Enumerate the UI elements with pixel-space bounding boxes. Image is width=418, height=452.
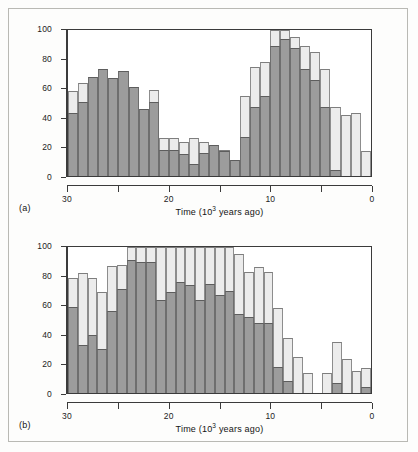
- bar-segment-light: [352, 371, 362, 393]
- bar-column: [107, 247, 117, 393]
- bar-segment-dark: [199, 153, 209, 176]
- x-axis-tick-label: 30: [62, 195, 72, 204]
- bar-segment-dark: [209, 145, 219, 176]
- y-axis-tick: [61, 364, 66, 365]
- bar-segment-dark: [230, 160, 240, 176]
- panel-a: 020406080100 3020100 Time (103 years ago…: [9, 9, 409, 226]
- bar-segment-dark: [169, 150, 179, 176]
- x-axis-tick: [67, 186, 68, 192]
- bar-column: [225, 247, 235, 393]
- bar-segment-dark: [176, 282, 186, 393]
- y-axis-tick: [61, 394, 66, 395]
- y-axis-tick-label: 100: [12, 242, 52, 250]
- bar-segment-dark: [332, 383, 342, 393]
- bar-segment-dark: [240, 137, 250, 176]
- bar-column: [219, 30, 229, 176]
- bar-column: [139, 30, 149, 176]
- bar-column: [250, 30, 260, 176]
- x-axis-title-prefix-a: Time (10: [176, 207, 213, 217]
- y-axis-tick: [61, 118, 66, 119]
- y-axis-tick: [61, 177, 66, 178]
- panel-tag-b: (b): [19, 420, 31, 430]
- figure-histogram-pair: 020406080100 3020100 Time (103 years ago…: [0, 0, 418, 452]
- bar-column: [118, 30, 128, 176]
- y-axis-tick-label: 0: [12, 390, 52, 398]
- bar-column: [332, 247, 342, 393]
- bar-column: [189, 30, 199, 176]
- y-axis-tick-label: 80: [12, 55, 52, 63]
- bar-segment-dark: [118, 71, 128, 176]
- y-axis-tick-label: 60: [12, 84, 52, 92]
- figure-frame: 020406080100 3020100 Time (103 years ago…: [8, 8, 408, 442]
- bar-segment-dark: [330, 170, 340, 176]
- bar-segment-dark: [205, 284, 215, 394]
- bar-segment-dark: [78, 102, 88, 176]
- x-axis-b: 3020100: [67, 402, 372, 410]
- bar-column: [283, 247, 293, 393]
- x-axis-tick: [67, 403, 68, 409]
- bar-segment-dark: [68, 307, 78, 393]
- bar-column: [195, 247, 205, 393]
- y-axis-tick-label: 0: [12, 173, 52, 181]
- bar-column: [156, 247, 166, 393]
- bar-column: [300, 30, 310, 176]
- bar-column: [146, 247, 156, 393]
- panel-b: 020406080100 3020100 Time (103 years ago…: [9, 226, 409, 443]
- bar-column: [322, 247, 332, 393]
- plot-area-a: [67, 29, 372, 177]
- panel-tag-a: (a): [19, 203, 31, 213]
- bar-group-b: [68, 247, 371, 393]
- bar-column: [159, 30, 169, 176]
- bar-segment-dark: [219, 151, 229, 176]
- x-axis-tick-label: 20: [164, 412, 174, 421]
- bar-column: [209, 30, 219, 176]
- bar-segment-dark: [225, 291, 235, 393]
- bar-column: [78, 247, 88, 393]
- bar-column: [273, 247, 283, 393]
- bar-column: [149, 30, 159, 176]
- bar-column: [351, 30, 361, 176]
- x-axis-tick-label: 30: [62, 412, 72, 421]
- bar-column: [254, 247, 264, 393]
- bar-segment-dark: [260, 96, 270, 176]
- bar-column: [313, 247, 323, 393]
- bar-segment-dark: [273, 367, 283, 393]
- bar-column: [176, 247, 186, 393]
- bar-column: [68, 30, 78, 176]
- bar-segment-dark: [149, 102, 159, 176]
- x-axis-tick: [372, 403, 373, 409]
- bar-column: [280, 30, 290, 176]
- bar-segment-dark: [88, 335, 98, 393]
- x-axis-tick: [321, 186, 322, 192]
- bar-segment-dark: [179, 154, 189, 176]
- bar-column: [78, 30, 88, 176]
- y-axis-tick: [61, 88, 66, 89]
- bar-column: [264, 247, 274, 393]
- x-axis-title-suffix-a: years ago): [216, 207, 263, 217]
- x-axis-title-a: Time (103 years ago): [67, 205, 372, 217]
- bar-column: [361, 30, 371, 176]
- bar-column: [330, 30, 340, 176]
- x-axis-tick-label: 10: [265, 195, 275, 204]
- y-axis-tick-label: 100: [12, 25, 52, 33]
- y-axis-tick-label: 80: [12, 272, 52, 280]
- bar-segment-dark: [159, 150, 169, 176]
- bar-column: [303, 247, 313, 393]
- bar-segment-light: [303, 373, 313, 393]
- bar-column: [98, 30, 108, 176]
- bar-segment-dark: [185, 285, 195, 393]
- bar-column: [320, 30, 330, 176]
- bar-segment-dark: [244, 317, 254, 393]
- bar-column: [185, 247, 195, 393]
- bar-column: [215, 247, 225, 393]
- x-axis-tick: [321, 403, 322, 409]
- bar-column: [127, 247, 137, 393]
- bar-segment-dark: [270, 46, 280, 176]
- bar-segment-light: [330, 107, 340, 176]
- x-axis-a: 3020100: [67, 185, 372, 193]
- x-axis-tick: [169, 403, 170, 409]
- x-axis-tick: [220, 186, 221, 192]
- x-axis-tick: [270, 403, 271, 409]
- y-axis-tick: [61, 59, 66, 60]
- bar-column: [88, 30, 98, 176]
